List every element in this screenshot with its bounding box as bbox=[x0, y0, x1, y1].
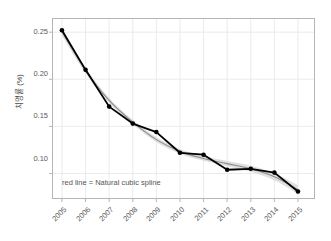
y-tick-label-1: 0.20 bbox=[22, 69, 48, 78]
data-point bbox=[272, 170, 277, 175]
data-point bbox=[60, 28, 65, 33]
data-point bbox=[83, 68, 88, 73]
y-tick-label-2: 0.15 bbox=[22, 111, 48, 120]
data-point bbox=[248, 167, 253, 172]
data-point bbox=[201, 152, 206, 157]
data-point bbox=[178, 150, 183, 155]
chart-figure: 치명률 (%) 0.25 0.20 0.15 0.10 200520062007… bbox=[0, 0, 331, 241]
y-tick-label-0: 0.25 bbox=[22, 27, 48, 36]
y-tick-label-3: 0.10 bbox=[22, 154, 48, 163]
data-point bbox=[154, 130, 159, 135]
data-point bbox=[130, 121, 135, 126]
data-point bbox=[225, 167, 230, 172]
spline-annotation: red line = Natural cubic spline bbox=[62, 178, 161, 187]
data-point bbox=[107, 104, 112, 109]
data-point bbox=[296, 189, 301, 194]
chart-plot-area bbox=[0, 0, 331, 241]
